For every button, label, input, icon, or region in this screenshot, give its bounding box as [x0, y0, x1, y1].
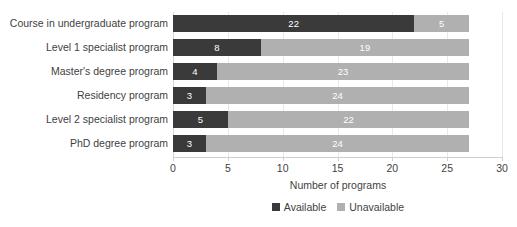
legend-item[interactable]: Unavailable [337, 201, 404, 213]
tick-mark-10 [283, 157, 284, 161]
legend-label: Available [284, 201, 326, 213]
tick-mark-5 [228, 157, 229, 161]
category-label: Level 2 specialist program [0, 111, 168, 128]
bar-row[interactable]: 225 [173, 15, 502, 32]
bar-row[interactable]: 324 [173, 87, 502, 104]
gridline-30 [502, 12, 503, 157]
bar-segment-unavailable[interactable]: 5 [414, 15, 469, 32]
legend-label: Unavailable [349, 201, 404, 213]
bar-segment-unavailable[interactable]: 24 [206, 87, 469, 104]
category-axis-labels: Course in undergraduate programLevel 1 s… [0, 12, 168, 157]
chart-title [8, 0, 508, 3]
bar-segment-available[interactable]: 3 [173, 87, 206, 104]
legend-item[interactable]: Available [272, 201, 326, 213]
tick-label-5: 5 [208, 162, 248, 174]
category-label: Level 1 specialist program [0, 39, 168, 56]
bar-rows: 225819423324522324 [173, 12, 502, 157]
category-label: Master's degree program [0, 63, 168, 80]
stacked-bar-chart: Course in undergraduate programLevel 1 s… [0, 0, 517, 227]
tick-label-10: 10 [263, 162, 303, 174]
tick-label-20: 20 [372, 162, 412, 174]
bar-row[interactable]: 522 [173, 111, 502, 128]
x-axis-title: Number of programs [173, 179, 503, 191]
bar-segment-available[interactable]: 3 [173, 135, 206, 152]
tick-mark-0 [173, 157, 174, 161]
bar-row[interactable]: 819 [173, 39, 502, 56]
tick-mark-30 [502, 157, 503, 161]
tick-mark-25 [447, 157, 448, 161]
tick-mark-15 [338, 157, 339, 161]
bar-segment-unavailable[interactable]: 24 [206, 135, 469, 152]
bar-segment-available[interactable]: 4 [173, 63, 217, 80]
chart-legend: AvailableUnavailable [173, 201, 503, 213]
tick-mark-20 [392, 157, 393, 161]
category-label: Residency program [0, 87, 168, 104]
tick-label-30: 30 [482, 162, 517, 174]
plot-area: 225819423324522324 [173, 12, 502, 157]
legend-swatch-icon [337, 203, 345, 211]
bar-segment-unavailable[interactable]: 23 [217, 63, 469, 80]
bar-segment-unavailable[interactable]: 19 [261, 39, 469, 56]
legend-swatch-icon [272, 203, 280, 211]
bar-segment-available[interactable]: 8 [173, 39, 261, 56]
category-label: PhD degree program [0, 135, 168, 152]
tick-label-25: 25 [427, 162, 467, 174]
bar-segment-available[interactable]: 22 [173, 15, 414, 32]
bar-segment-unavailable[interactable]: 22 [228, 111, 469, 128]
bar-row[interactable]: 324 [173, 135, 502, 152]
tick-label-0: 0 [153, 162, 193, 174]
category-label: Course in undergraduate program [0, 15, 168, 32]
tick-label-15: 15 [318, 162, 358, 174]
bar-segment-available[interactable]: 5 [173, 111, 228, 128]
bar-row[interactable]: 423 [173, 63, 502, 80]
